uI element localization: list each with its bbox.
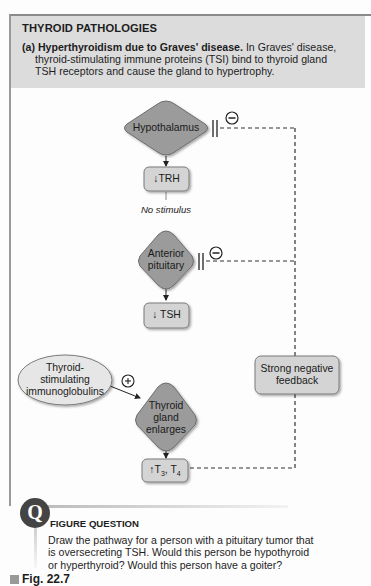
tsi-line-1: Thyroid- [18,362,112,374]
anterior-pituitary-label: Anterior pituitary [130,248,202,272]
question-line-3: or hyperthyroid? Would this person have … [48,559,348,571]
t3-t4-label: ↑T3, T4 [142,464,188,480]
figure-question-text: Draw the pathway for a person with a pit… [48,534,348,571]
feedback-label: Strong negative feedback [255,363,339,387]
trh-label: ↓TRH [144,173,189,185]
feedback-line-1: Strong negative [255,363,339,375]
question-vertical-rule [34,528,37,568]
tsh-label: ↓ TSH [144,309,189,321]
pituitary-text: pituitary [130,260,202,272]
hypothalamus-label: Hypothalamus [120,122,212,134]
question-line-1: Draw the pathway for a person with a pit… [48,534,348,546]
no-stimulus-label: No stimulus [126,204,206,216]
figure-label: Fig. 22.7 [10,572,70,586]
tsh-text: TSH [160,309,181,320]
down-arrow-icon: ↓ [152,309,157,320]
figure-question-title: FIGURE QUESTION [50,518,139,529]
tsi-line-2: stimulating [18,374,112,386]
feedback-line-2: feedback [255,375,339,387]
question-line-2: is oversecreting TSH. Would this person … [48,546,348,558]
plus-circle-icon [122,375,134,387]
tsi-line-3: immunoglobulins [18,386,112,398]
thyroid-gland-label: Thyroid gland enlarges [130,400,202,436]
minus-circle-icon [210,247,222,259]
thyroid-line-3: enlarges [130,424,202,436]
anterior-text: Anterior [130,248,202,260]
trh-text: TRH [158,173,179,184]
t4-subscript: 4 [177,470,181,477]
thyroid-line-2: gland [130,412,202,424]
figure-square-icon [10,575,19,584]
feedback-dashed-lines [190,128,295,468]
minus-circle-icon [226,112,238,124]
tsi-label: Thyroid- stimulating immunoglobulins [18,362,112,398]
thyroid-line-1: Thyroid [130,400,202,412]
question-divider [48,505,288,508]
question-icon: Q [20,498,50,528]
figure-number: Fig. 22.7 [22,572,70,586]
